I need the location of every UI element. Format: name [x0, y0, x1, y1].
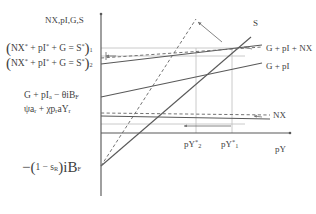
intercept-label-bottom: −(1 − sR)iBF [22, 160, 81, 175]
intercept-label-g-pi-theta: G + pIa − θiBF [24, 91, 79, 101]
annotation-arrow-gpinx-end [244, 47, 252, 49]
bottom-sub2: F [77, 165, 81, 172]
x-tick-1-sub: 1 [235, 142, 238, 149]
eq1-subscript: 1 [90, 46, 93, 53]
annotation-arrow-nx-end [254, 116, 262, 117]
intercept-nx-sub3: r [69, 107, 71, 114]
x-tick-label-1: pY*1 [221, 139, 238, 149]
curve-g-pi [101, 63, 262, 97]
intercept-label-nx: ψar + χpraYr [24, 105, 71, 115]
eq1-body: NX* + pI* + G = S* [11, 43, 85, 53]
axes [101, 14, 290, 196]
x-tick-label-2: pY*2 [184, 139, 201, 149]
bottom-body: 1 − s [35, 162, 54, 172]
bottom-close: )iB [58, 159, 77, 175]
y-axis-cap [100, 13, 103, 16]
curve-label-g-pi-nx: G + pI + NX [266, 44, 312, 53]
curve-nx [101, 116, 270, 119]
intercept-nx-mid: + χp [36, 104, 55, 114]
x-axis-title: pY [275, 145, 286, 154]
intercept-nx-end: aY [57, 104, 68, 114]
x-tick-2-sub: 2 [198, 142, 201, 149]
eq2-subscript: 2 [90, 61, 93, 68]
equilibrium-equation-2: (NX* + pI* + G = S*)2 [6, 56, 93, 71]
equilibrium-equation-1: (NX* + pI* + G = S*)1 [6, 41, 93, 56]
bottom-open: −( [22, 159, 35, 175]
eq2-body: NX* + pI* + G = S* [11, 58, 85, 68]
curve-nx-shifted [101, 113, 270, 115]
intercept-theta-sub: F [75, 93, 79, 100]
curve-label-g-pi: G + pI [266, 62, 290, 71]
curve-label-nx: NX [273, 111, 286, 120]
curve-s-shifted [101, 19, 196, 166]
intercept-nx-psi: ψa [24, 104, 34, 114]
y-axis-title: NX,pI,G,S [45, 16, 84, 25]
intercept-theta-text: − θiB [52, 90, 76, 100]
x-tick-1-base: pY [221, 139, 232, 149]
intercept-gpi-text: G + pI [24, 90, 49, 100]
curve-label-s: S [253, 19, 258, 28]
economics-diagram: NX,pI,G,S (NX* + pI* + G = S*)1 (NX* + p… [0, 0, 316, 214]
annotation-arrow-s [198, 22, 222, 42]
x-tick-2-base: pY [184, 139, 195, 149]
x-axis-cap [289, 132, 292, 135]
